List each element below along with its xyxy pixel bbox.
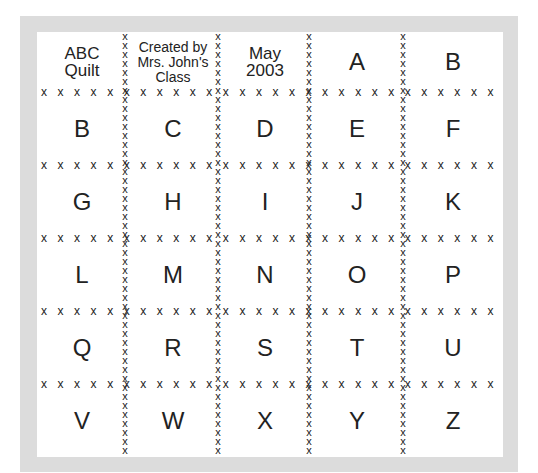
letter-cell: A xyxy=(311,32,403,92)
title-line-1: ABC xyxy=(65,45,100,62)
creator-line-3: Class xyxy=(137,70,208,85)
letter-cell: T xyxy=(311,311,403,384)
horizontal-stitch: x x x x x x x x x x x x x x x x x x x x … xyxy=(37,86,503,98)
letter-cell: Z xyxy=(403,384,503,457)
creator-line-2: Mrs. John's xyxy=(137,55,208,70)
creator-line-1: Created by xyxy=(137,40,208,55)
letter-cell: S xyxy=(219,311,311,384)
horizontal-stitch: x x x x x x x x x x x x x x x x x x x x … xyxy=(37,159,503,171)
letter-cell: L xyxy=(37,238,127,311)
letter-cell: X xyxy=(219,384,311,457)
letter-cell: C xyxy=(127,92,219,165)
date-line-2: 2003 xyxy=(246,62,284,79)
letter-cell: Y xyxy=(311,384,403,457)
letter-cell: H xyxy=(127,165,219,238)
letter-cell: K xyxy=(403,165,503,238)
letter-cell: O xyxy=(311,238,403,311)
letter-cell: F xyxy=(403,92,503,165)
letter-cell: N xyxy=(219,238,311,311)
creator-cell: Created by Mrs. John's Class xyxy=(127,32,219,92)
letter-cell: B xyxy=(37,92,127,165)
horizontal-stitch: x x x x x x x x x x x x x x x x x x x x … xyxy=(37,305,503,317)
date-line-1: May xyxy=(246,45,284,62)
date-cell: May 2003 xyxy=(219,32,311,92)
letter-cell: B xyxy=(403,32,503,92)
quilt-title-cell: ABC Quilt xyxy=(37,32,127,92)
letter-cell: D xyxy=(219,92,311,165)
letter-cell: W xyxy=(127,384,219,457)
horizontal-stitch: x x x x x x x x x x x x x x x x x x x x … xyxy=(37,378,503,390)
letter-cell: J xyxy=(311,165,403,238)
letter-cell: G xyxy=(37,165,127,238)
letter-cell: V xyxy=(37,384,127,457)
letter-cell: P xyxy=(403,238,503,311)
letter-cell: Q xyxy=(37,311,127,384)
letter-cell: R xyxy=(127,311,219,384)
letter-cell: E xyxy=(311,92,403,165)
letter-cell: I xyxy=(219,165,311,238)
horizontal-stitch: x x x x x x x x x x x x x x x x x x x x … xyxy=(37,232,503,244)
letter-cell: M xyxy=(127,238,219,311)
abc-quilt: ABC Quilt Created by Mrs. John's Class M… xyxy=(37,32,503,457)
title-line-2: Quilt xyxy=(65,62,100,79)
letter-cell: U xyxy=(403,311,503,384)
